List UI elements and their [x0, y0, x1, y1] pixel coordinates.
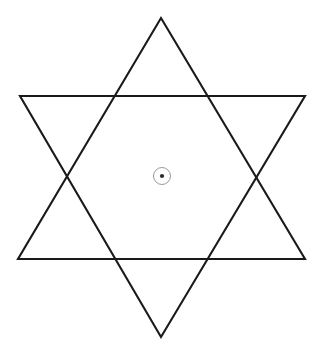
- center-dot-icon: [160, 174, 164, 178]
- hexagram-figure: [0, 0, 322, 355]
- hexagram-svg: [0, 0, 322, 355]
